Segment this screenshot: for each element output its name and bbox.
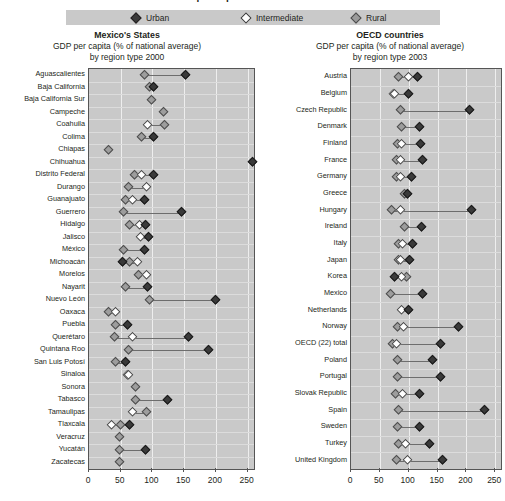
row-separator <box>351 152 501 153</box>
axis-tick-label: 250 <box>232 475 262 485</box>
row-separator <box>89 82 254 83</box>
row-separator <box>89 432 254 433</box>
right-panel-heading: OECD countries GDP per capita (% of nati… <box>285 30 495 63</box>
data-point-urban <box>140 245 150 255</box>
row-separator <box>89 244 254 245</box>
category-label: Ireland <box>325 222 347 230</box>
filled-diamond-icon <box>130 12 141 23</box>
data-point-urban <box>415 388 425 398</box>
axis-tick-label: 0 <box>335 475 365 485</box>
data-point-urban <box>404 88 414 98</box>
data-point-urban <box>248 157 258 167</box>
row-separator <box>89 369 254 370</box>
data-point-rural <box>137 132 147 142</box>
category-label: Spain <box>328 406 347 414</box>
axis-tick <box>379 468 380 472</box>
row-separator <box>89 282 254 283</box>
category-label: Puebla <box>62 320 85 328</box>
data-point-intermediate <box>132 257 142 267</box>
category-label: Oaxaca <box>60 308 85 316</box>
data-point-urban <box>117 257 127 267</box>
data-point-urban <box>416 222 426 232</box>
data-point-rural <box>109 332 119 342</box>
data-point-rural <box>159 107 169 117</box>
row-separator <box>89 94 254 95</box>
axis-tick-label: 0 <box>73 475 103 485</box>
axis-tick-label: 200 <box>200 475 230 485</box>
category-label: OECD (22) total <box>295 339 347 347</box>
data-point-rural <box>130 395 140 405</box>
row-separator <box>89 394 254 395</box>
row-separator <box>351 269 501 270</box>
category-label: Netherlands <box>308 306 347 314</box>
data-point-intermediate <box>142 120 152 130</box>
category-label: Baja California <box>38 83 85 91</box>
row-separator <box>89 207 254 208</box>
left-panel-heading: Mexico's States GDP per capita (% of nat… <box>22 30 232 63</box>
row-separator <box>351 336 501 337</box>
left-panel-subtitle-1: GDP per capita (% of national average) <box>22 41 232 52</box>
data-point-intermediate <box>107 420 117 430</box>
category-label: Morelos <box>59 270 85 278</box>
data-point-urban <box>418 155 428 165</box>
axis-tick <box>408 468 409 472</box>
value-connector <box>397 361 432 362</box>
legend-label-urban: Urban <box>146 13 169 23</box>
data-point-rural <box>141 407 151 417</box>
category-label: Sweden <box>321 422 347 430</box>
row-separator <box>89 344 254 345</box>
page-title-strip: GDP per capita in Mexico's States <box>0 0 505 7</box>
left-panel-subtitle-2: by region type 2000 <box>22 52 232 63</box>
category-label: Guanajuato <box>47 195 85 203</box>
data-point-urban <box>141 445 151 455</box>
row-separator <box>89 219 254 220</box>
data-point-intermediate <box>142 270 152 280</box>
axis-tick <box>88 468 89 472</box>
data-point-intermediate <box>137 170 147 180</box>
category-label: United Kingdom <box>295 456 347 464</box>
data-point-intermediate <box>397 388 407 398</box>
data-point-rural <box>104 145 114 155</box>
category-label: Hungary <box>319 206 347 214</box>
row-separator <box>89 419 254 420</box>
category-label: Portugal <box>320 372 347 380</box>
data-point-intermediate <box>128 332 138 342</box>
legend-item-urban: Urban <box>132 10 169 25</box>
legend-item-rural: Rural <box>352 10 386 25</box>
data-point-urban <box>480 405 490 415</box>
row-separator <box>89 119 254 120</box>
category-label: Tamaulipas <box>48 408 85 416</box>
data-point-rural <box>115 432 125 442</box>
category-label: Korea <box>328 272 347 280</box>
category-label: Denmark <box>317 122 347 130</box>
row-separator <box>89 407 254 408</box>
data-point-urban <box>418 288 428 298</box>
row-separator <box>351 369 501 370</box>
category-label: Veracruz <box>56 433 85 441</box>
row-separator <box>351 386 501 387</box>
data-point-urban <box>148 132 158 142</box>
row-separator <box>89 157 254 158</box>
category-label: Michoacán <box>50 258 85 266</box>
right-panel-subtitle-2: by region type 2003 <box>285 52 495 63</box>
category-label: Quintana Roo <box>40 345 85 353</box>
axis-tick <box>494 468 495 472</box>
category-label: Campeche <box>50 108 85 116</box>
category-label: Greece <box>323 189 347 197</box>
row-separator <box>351 202 501 203</box>
right-panel-subtitle-1: GDP per capita (% of national average) <box>285 41 495 52</box>
category-label: Slovak Republic <box>295 389 347 397</box>
category-label: France <box>324 156 347 164</box>
category-label: Czech Republic <box>296 106 347 114</box>
data-point-rural <box>393 72 403 82</box>
category-label: México <box>62 245 85 253</box>
data-point-urban <box>403 305 413 315</box>
data-point-rural <box>392 355 402 365</box>
value-connector <box>150 300 215 301</box>
data-point-rural <box>160 120 170 130</box>
row-separator <box>351 436 501 437</box>
data-point-urban <box>427 355 437 365</box>
data-point-intermediate <box>127 195 137 205</box>
row-separator <box>351 219 501 220</box>
data-point-urban <box>141 220 151 230</box>
